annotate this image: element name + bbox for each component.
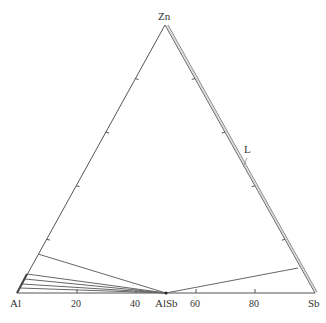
edge-al-zn [17, 25, 165, 293]
right-ticks [192, 79, 285, 241]
tick-label-20: 20 [71, 298, 81, 309]
phase-label-l: L [244, 143, 251, 155]
alsb-point [165, 292, 168, 295]
al-solid-solution [17, 274, 27, 293]
compound-label-alsb: AlSb [155, 297, 178, 309]
edge-zn-sb [165, 25, 315, 293]
vertex-label-zn: Zn [158, 10, 171, 22]
tick-label-60: 60 [190, 298, 200, 309]
vertex-label-al: Al [10, 297, 21, 309]
tie-lines-left [20, 254, 166, 293]
ternary-diagram: Zn Al Sb AlSb L 20 40 60 80 [0, 0, 326, 323]
left-ticks [47, 79, 139, 240]
tie-line-right [166, 268, 298, 293]
vertex-label-sb: Sb [308, 297, 320, 309]
tick-label-40: 40 [130, 298, 140, 309]
tick-label-80: 80 [249, 298, 259, 309]
liquidus-line [168, 25, 317, 292]
liquidus-fill [167, 25, 317, 293]
